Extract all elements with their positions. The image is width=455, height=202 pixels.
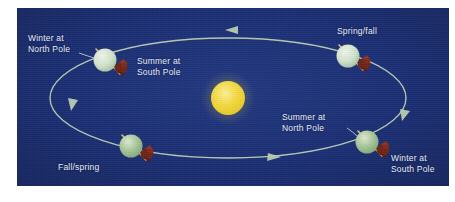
label-line-1: Summer at [137,56,181,67]
earth-sphere [337,45,360,68]
earth-summer-north-pole [356,131,390,159]
earth-spring-fall [337,45,371,73]
label-line-2: North Pole [282,123,325,134]
orbit-illustration [17,8,449,186]
label-line-1: Fall/spring [58,162,99,173]
orbit-diagram-panel: Winter at North Pole Summer at South Pol… [17,8,449,186]
observer-figure [115,59,128,76]
orbit-arrow-left-down [68,98,78,111]
label-line-2: North Pole [28,44,70,55]
earth-winter-north-pole [94,49,128,77]
label-line-1: Summer at [282,112,325,123]
label-summer-south-pole: Summer at South Pole [137,56,181,77]
orbit-arrow-bottom-right [267,153,281,161]
earth-sphere [356,131,379,154]
sun-group [201,71,255,125]
leader-winter-north-pole [79,53,94,58]
label-winter-south-pole: Winter at South Pole [391,153,435,174]
diagram-canvas: Winter at North Pole Summer at South Pol… [0,0,455,202]
orbit-arrow-top-left [225,26,238,34]
earth-fall-spring [120,135,154,163]
orbit-arrow-right-up [400,109,410,121]
sun [211,81,245,115]
label-line-1: Winter at [391,153,435,164]
label-line-2: South Pole [391,164,435,175]
earth-sphere [120,135,143,158]
earth-sphere [94,49,117,72]
observer-figure [377,141,390,158]
label-winter-north-pole: Winter at North Pole [28,33,70,54]
label-line-1: Winter at [28,33,70,44]
label-line-1: Spring/fall [337,26,377,37]
label-line-2: South Pole [137,67,181,78]
label-spring-fall: Spring/fall [337,26,377,37]
leader-summer-north-pole [347,128,357,136]
observer-figure [141,145,154,162]
label-fall-spring: Fall/spring [58,162,99,173]
label-summer-north-pole: Summer at North Pole [282,112,325,133]
